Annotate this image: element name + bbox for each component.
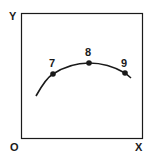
point-7-marker [50,71,56,77]
point-7-label: 7 [49,58,55,69]
y-axis-label: Y [9,11,16,22]
origin-label: O [10,142,19,153]
frame-box [22,14,143,139]
point-9-marker [122,70,128,76]
point-8-marker [86,60,92,66]
point-8-label: 8 [85,47,91,58]
point-9-label: 9 [121,58,127,69]
diagram-canvas [0,0,152,159]
x-axis-label: X [135,142,142,153]
